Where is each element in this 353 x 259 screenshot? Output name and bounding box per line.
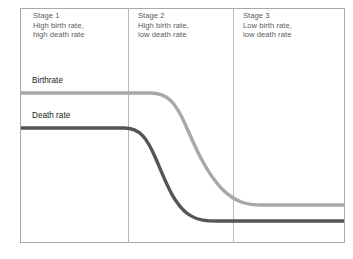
- plot-frame: [20, 8, 345, 243]
- birthrate-series-label: Birthrate: [32, 76, 63, 85]
- stage-divider-2: [233, 8, 234, 243]
- stage-1-line-1: High birth rate,: [33, 21, 84, 31]
- stage-1-title: Stage 1: [33, 11, 84, 21]
- death-rate-series-label: Death rate: [32, 111, 70, 120]
- stage-note-1: Stage 1 High birth rate, high death rate: [33, 11, 84, 40]
- stage-3-line-2: low death rate: [243, 30, 292, 40]
- demographic-transition-chart: Stage 1 High birth rate, high death rate…: [0, 0, 353, 259]
- stage-2-line-1: High birth rate,: [138, 21, 189, 31]
- stage-1-line-2: high death rate: [33, 30, 84, 40]
- stage-2-title: Stage 2: [138, 11, 189, 21]
- stage-note-3: Stage 3 Low birth rate, low death rate: [243, 11, 292, 40]
- stage-3-title: Stage 3: [243, 11, 292, 21]
- stage-note-2: Stage 2 High birth rate, low death rate: [138, 11, 189, 40]
- stage-divider-1: [128, 8, 129, 243]
- stage-3-line-1: Low birth rate,: [243, 21, 292, 31]
- stage-2-line-2: low death rate: [138, 30, 189, 40]
